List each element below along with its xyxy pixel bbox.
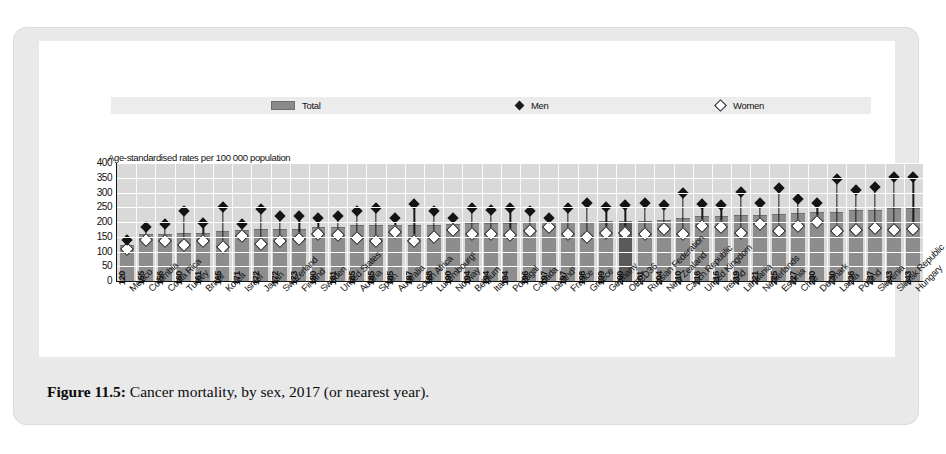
vertical-gridline: [271, 163, 272, 281]
vertical-gridline: [769, 163, 770, 281]
total-bar-swatch-icon: [271, 101, 295, 110]
vertical-gridline: [616, 163, 617, 281]
vertical-gridline: [827, 163, 828, 281]
open-diamond-icon: [714, 99, 727, 112]
chart-legend: Total Men Women: [111, 97, 871, 114]
men-marker[interactable]: [792, 194, 803, 205]
caption-text: Cancer mortality, by sex, 2017 (or neare…: [126, 383, 429, 400]
y-axis-title: Age-standardised rates per 100 000 popul…: [108, 152, 290, 163]
chart-panel: Total Men Women Age-standardised rates p…: [39, 41, 895, 357]
y-tick-label: 100: [97, 247, 112, 257]
vertical-gridline: [750, 163, 751, 281]
legend-item-total: Total: [271, 100, 321, 111]
legend-item-women: Women: [716, 100, 764, 111]
vertical-gridline: [520, 163, 521, 281]
vertical-gridline: [328, 163, 329, 281]
vertical-gridline: [865, 163, 866, 281]
y-tick-label: 50: [102, 261, 112, 271]
vertical-gridline: [290, 163, 291, 281]
vertical-gridline: [539, 163, 540, 281]
men-marker[interactable]: [869, 182, 880, 193]
vertical-gridline: [846, 163, 847, 281]
men-marker[interactable]: [255, 203, 266, 214]
legend-label-women: Women: [733, 100, 764, 111]
men-marker[interactable]: [716, 199, 727, 210]
vertical-gridline: [578, 163, 579, 281]
men-marker[interactable]: [658, 199, 669, 210]
figure-number: Figure 11.5:: [47, 383, 126, 400]
y-axis: 050100150200250300350400: [86, 163, 112, 281]
figure-caption: Figure 11.5: Cancer mortality, by sex, 2…: [47, 383, 429, 401]
y-tick-label: 350: [97, 173, 112, 183]
bar-value-label: 120: [117, 271, 127, 285]
men-marker[interactable]: [850, 184, 861, 195]
vertical-gridline: [347, 163, 348, 281]
vertical-gridline: [386, 163, 387, 281]
vertical-gridline: [808, 163, 809, 281]
legend-item-men: Men: [516, 100, 549, 111]
vertical-gridline: [904, 163, 905, 281]
filled-diamond-icon: [515, 101, 525, 111]
vertical-gridline: [251, 163, 252, 281]
vertical-gridline: [136, 163, 137, 281]
men-marker[interactable]: [831, 174, 842, 185]
y-tick-label: 150: [97, 232, 112, 242]
y-tick-label: 0: [107, 276, 112, 286]
men-marker[interactable]: [236, 218, 247, 229]
y-tick-label: 250: [97, 202, 112, 212]
vertical-gridline: [558, 163, 559, 281]
men-marker[interactable]: [274, 210, 285, 221]
figure-card: Total Men Women Age-standardised rates p…: [13, 27, 919, 425]
vertical-gridline: [424, 163, 425, 281]
vertical-gridline: [482, 163, 483, 281]
vertical-gridline: [405, 163, 406, 281]
men-marker[interactable]: [159, 218, 170, 229]
vertical-gridline: [501, 163, 502, 281]
men-marker[interactable]: [294, 210, 305, 221]
plot-area: 1201551561601611651711721721731801811851…: [116, 163, 923, 282]
men-marker[interactable]: [140, 221, 151, 232]
vertical-gridline: [213, 163, 214, 281]
men-marker[interactable]: [332, 211, 343, 222]
vertical-gridline: [597, 163, 598, 281]
men-marker[interactable]: [485, 204, 496, 215]
men-marker[interactable]: [697, 199, 708, 210]
legend-label-men: Men: [531, 100, 549, 111]
legend-label-total: Total: [302, 100, 321, 111]
vertical-gridline: [232, 163, 233, 281]
vertical-gridline: [885, 163, 886, 281]
y-tick-label: 400: [97, 158, 112, 168]
y-tick-label: 200: [97, 217, 112, 227]
vertical-gridline: [155, 163, 156, 281]
x-axis-labels: MexicoColombiaCosta RicaTurkeyBrazilKore…: [116, 284, 922, 379]
y-tick-label: 300: [97, 188, 112, 198]
men-marker[interactable]: [620, 199, 631, 210]
